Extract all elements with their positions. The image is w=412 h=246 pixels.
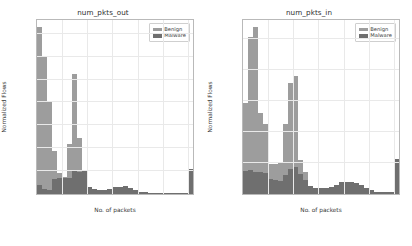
gridline-horizontal (37, 170, 193, 171)
x-tick-mark (87, 194, 88, 195)
gridline-vertical (62, 20, 63, 194)
panel-title: num_pkts_in (206, 8, 412, 17)
gridline-vertical (188, 20, 189, 194)
x-tick-mark (368, 194, 369, 195)
bars-container (37, 20, 193, 194)
gridline-vertical (268, 20, 269, 194)
gridline-vertical (138, 20, 139, 194)
y-tick-mark (36, 56, 37, 57)
legend-label-malware: Malware (164, 33, 186, 38)
x-tick-mark (37, 194, 38, 195)
gridline-horizontal (243, 131, 399, 132)
plot-area: Benign Malware 0.0%5.0%10.0%15.0%20.0%25… (242, 19, 400, 195)
x-tick-mark (393, 194, 394, 195)
gridline-vertical (112, 20, 113, 194)
y-tick-mark (36, 79, 37, 80)
gridline-horizontal (243, 69, 399, 70)
y-axis-label: Normalized Flows (1, 82, 7, 133)
figure-histogram-pair: num_pkts_out Normalized Flows Benign Mal… (0, 0, 412, 246)
x-axis-label: No. of packets (36, 207, 194, 213)
gridline-horizontal (37, 56, 193, 57)
y-tick-mark (36, 125, 37, 126)
x-tick-mark (318, 194, 319, 195)
y-tick-mark (242, 38, 243, 39)
gridline-vertical (369, 20, 370, 194)
x-tick-mark (243, 194, 244, 195)
gridline-horizontal (243, 162, 399, 163)
y-axis-label: Normalized Flows (207, 82, 213, 133)
gridline-vertical (293, 20, 294, 194)
gridline-vertical (394, 20, 395, 194)
y-tick-mark (36, 171, 37, 172)
y-tick-mark (36, 148, 37, 149)
panel-num-pkts-in: num_pkts_in Normalized Flows Benign Malw… (206, 0, 412, 246)
y-tick-mark (242, 69, 243, 70)
x-axis-label: No. of packets (242, 207, 400, 213)
y-tick-mark (36, 102, 37, 103)
x-tick-mark (62, 194, 63, 195)
gridline-vertical (87, 20, 88, 194)
gridline-horizontal (37, 147, 193, 148)
y-tick-mark (242, 131, 243, 132)
gridline-horizontal (243, 38, 399, 39)
x-tick-mark (162, 194, 163, 195)
gridline-vertical (344, 20, 345, 194)
y-tick-mark (242, 162, 243, 163)
panel-num-pkts-out: num_pkts_out Normalized Flows Benign Mal… (0, 0, 206, 246)
x-tick-mark (268, 194, 269, 195)
x-tick-mark (293, 194, 294, 195)
gridline-horizontal (37, 124, 193, 125)
y-tick-mark (242, 100, 243, 101)
gridline-horizontal (37, 33, 193, 34)
y-tick-mark (36, 33, 37, 34)
bars-container (243, 20, 399, 194)
legend-swatch-malware-icon (153, 34, 162, 38)
gridline-vertical (318, 20, 319, 194)
plot-area: Benign Malware 0.0%5.0%10.0%15.0%20.0%25… (36, 19, 194, 195)
x-tick-mark (112, 194, 113, 195)
legend: Benign Malware (355, 23, 396, 42)
gridline-horizontal (37, 79, 193, 80)
x-tick-mark (187, 194, 188, 195)
legend-swatch-benign-icon (153, 28, 162, 32)
legend-swatch-benign-icon (359, 28, 368, 32)
gridline-horizontal (243, 100, 399, 101)
gridline-vertical (163, 20, 164, 194)
panel-title: num_pkts_out (0, 8, 206, 17)
gridline-horizontal (37, 101, 193, 102)
x-tick-mark (343, 194, 344, 195)
x-tick-mark (137, 194, 138, 195)
legend-item-malware: Malware (153, 33, 186, 38)
